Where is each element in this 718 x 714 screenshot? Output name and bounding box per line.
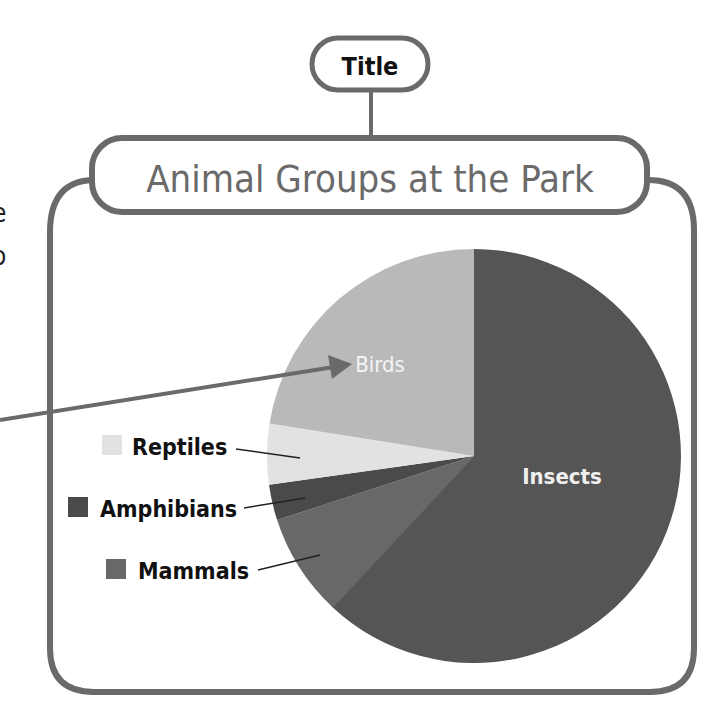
legend-swatch-reptiles xyxy=(102,435,122,455)
chart-title: Animal Groups at the Park xyxy=(146,157,594,201)
legend-label-mammals: Mammals xyxy=(138,558,249,584)
slice-label-insects: Insects xyxy=(522,464,602,489)
chart-title-box: Animal Groups at the Park xyxy=(92,138,647,212)
legend-label-reptiles: Reptiles xyxy=(132,434,227,460)
edge-text-fragment: e xyxy=(0,198,6,228)
legend-swatch-mammals xyxy=(106,559,126,579)
pie-chart: Birds Insects xyxy=(267,249,681,663)
slice-label-birds: Birds xyxy=(355,352,405,377)
legend-swatch-amphibians xyxy=(68,497,88,517)
legend-label-amphibians: Amphibians xyxy=(100,496,237,522)
title-callout-label: Title xyxy=(342,52,399,81)
chart-canvas: e o Title Animal Groups at the Park Bird… xyxy=(0,0,718,714)
edge-text-fragment: o xyxy=(0,241,6,271)
legend-item-mammals: Mammals xyxy=(106,555,320,584)
legend-item-amphibians: Amphibians xyxy=(68,496,305,522)
